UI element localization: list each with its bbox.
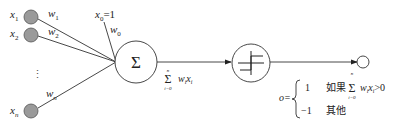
perceptron-diagram: x1 x2 xn ⋮ w1 w2 wn x0=1 w0 Σ n Σ i=0 wi… (0, 0, 399, 128)
activation-node (232, 44, 270, 82)
svg-text:o=: o= (279, 92, 291, 103)
svg-text:Σ: Σ (349, 81, 356, 95)
bias-label-x0: x0=1 (94, 8, 115, 23)
input-label-xn: xn (9, 104, 19, 119)
output-node (357, 56, 369, 68)
svg-text:−1: −1 (301, 105, 312, 116)
weight-label-w1: w1 (48, 7, 59, 22)
svg-text:wixi: wixi (178, 73, 193, 85)
svg-text:1: 1 (305, 82, 310, 93)
ellipsis-icon: ⋮ (32, 68, 43, 80)
weighted-sum-label: n Σ i=0 wixi (164, 68, 192, 91)
weight-label-w0: w0 (110, 23, 121, 38)
weight-label-w2: w2 (48, 25, 59, 40)
brace-icon (292, 80, 300, 118)
svg-text:n: n (351, 71, 354, 76)
input-node-xn (24, 104, 38, 118)
svg-text:i=0: i=0 (164, 86, 172, 91)
input-node-x1 (24, 10, 38, 24)
input-node-x2 (24, 28, 38, 42)
input-label-x2: x2 (9, 27, 19, 42)
svg-text:其他: 其他 (326, 104, 346, 116)
output-formula: o= 1 如果 n Σ i=0 wixi>0 −1 其他 (279, 71, 385, 118)
svg-text:wixi>0: wixi>0 (360, 82, 385, 94)
svg-text:i=0: i=0 (348, 95, 356, 100)
svg-text:Σ: Σ (165, 72, 172, 86)
input-label-x1: x1 (9, 8, 19, 23)
sigma-icon: Σ (131, 53, 141, 72)
summation-node: Σ (115, 41, 157, 83)
svg-text:如果: 如果 (326, 81, 346, 93)
